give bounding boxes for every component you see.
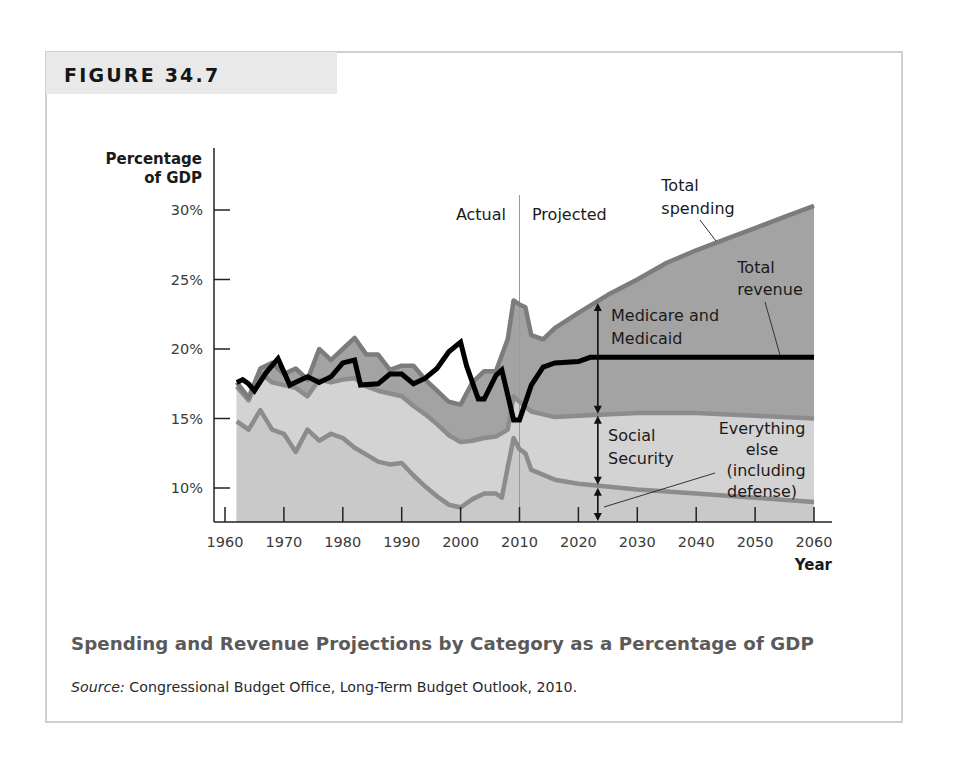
figure-caption: Spending and Revenue Projections by Cate… — [71, 633, 814, 654]
x-tick-label: 2030 — [619, 534, 656, 550]
everything-else-label: Everything — [719, 419, 806, 438]
figure-source: Source: Congressional Budget Office, Lon… — [71, 679, 577, 695]
y-axis-title: of GDP — [144, 169, 202, 187]
x-tick-label: 1980 — [324, 534, 361, 550]
total-spending-leader — [700, 220, 716, 241]
x-tick-label: 2010 — [501, 534, 538, 550]
y-tick-label: 10% — [171, 480, 203, 496]
y-axis-title: Percentage — [105, 150, 202, 168]
everything-else-label: (including — [726, 461, 805, 480]
total-spending-label: spending — [661, 199, 734, 218]
x-tick-label: 2040 — [678, 534, 715, 550]
x-tick-label: 2050 — [737, 534, 774, 550]
medicare-label: Medicare and — [611, 306, 719, 325]
total-revenue-label: Total — [736, 258, 774, 277]
everything-else-label: else — [746, 440, 778, 459]
actual-label: Actual — [456, 205, 506, 224]
y-tick-label: 20% — [171, 341, 203, 357]
total-revenue-label: revenue — [737, 280, 803, 299]
projected-label: Projected — [532, 205, 607, 224]
x-tick-label: 1990 — [383, 534, 420, 550]
spending-revenue-chart: 10%15%20%25%30%1960197019801990200020102… — [0, 0, 954, 620]
x-tick-label: 1970 — [265, 534, 302, 550]
source-text: Congressional Budget Office, Long-Term B… — [125, 679, 577, 695]
x-tick-label: 1960 — [207, 534, 244, 550]
y-tick-label: 25% — [171, 272, 203, 288]
y-tick-label: 30% — [171, 202, 203, 218]
x-tick-label: 2000 — [442, 534, 479, 550]
social-security-label: Social — [608, 426, 655, 445]
y-tick-label: 15% — [171, 411, 203, 427]
total-spending-label: Total — [660, 176, 698, 195]
x-tick-label: 2020 — [560, 534, 597, 550]
source-prefix: Source: — [71, 679, 125, 695]
medicare-label: Medicaid — [611, 329, 682, 348]
x-tick-label: 2060 — [796, 534, 833, 550]
x-axis-title: Year — [794, 556, 833, 574]
everything-else-label: defense) — [727, 482, 797, 501]
social-security-label: Security — [608, 449, 674, 468]
